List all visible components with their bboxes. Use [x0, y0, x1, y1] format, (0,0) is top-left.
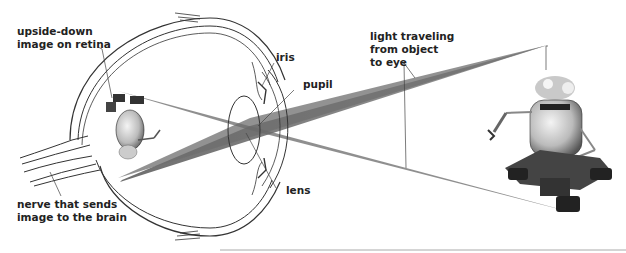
- label-light-line-3: to eye: [370, 56, 454, 69]
- label-lens: lens: [286, 184, 310, 197]
- label-retina-image: upside-down image on retina: [17, 25, 111, 51]
- label-nerve-line-2: image to the brain: [17, 211, 127, 224]
- label-light-line-1: light traveling: [370, 30, 454, 43]
- label-pupil: pupil: [303, 78, 333, 91]
- label-retina-line-1: upside-down: [17, 25, 111, 38]
- label-light: light traveling from object to eye: [370, 30, 454, 69]
- label-retina-line-2: image on retina: [17, 38, 111, 51]
- label-nerve-line-1: nerve that sends: [17, 198, 127, 211]
- robot-object: [488, 76, 612, 212]
- eye-diagram: upside-down image on retina nerve that s…: [0, 0, 626, 253]
- label-iris-text: iris: [276, 51, 295, 64]
- retina-image-robot: [106, 94, 160, 159]
- label-pupil-text: pupil: [303, 78, 333, 91]
- label-nerve: nerve that sends image to the brain: [17, 198, 127, 224]
- light-rays: [118, 45, 578, 214]
- label-iris: iris: [276, 51, 295, 64]
- label-lens-text: lens: [286, 184, 310, 197]
- optic-nerve: [20, 136, 100, 186]
- label-light-line-2: from object: [370, 43, 454, 56]
